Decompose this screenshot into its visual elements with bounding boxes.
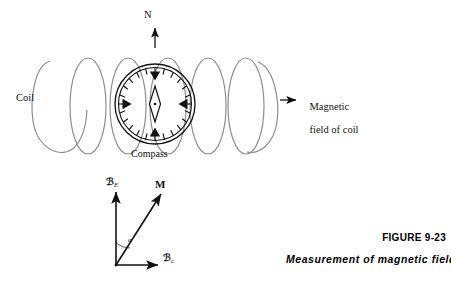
figure-caption: FIGURE 9-23 Measurement of magnetic fiel… [286,232,446,265]
label-compass: Compass [131,148,168,159]
coil-field-subscript: c [171,257,174,265]
label-earth-field-vector: ℬE [106,176,118,189]
compass-marker-north [150,72,160,81]
earth-field-symbol: ℬ [106,176,114,187]
coil-field-symbol: ℬ [163,252,171,263]
label-coil: Coil [16,92,34,104]
label-magnetic-field-of-coil: Magnetic field of coil [299,89,358,148]
compass-marker-west [123,99,132,109]
vector-resultant-m [116,194,161,265]
compass [115,64,195,144]
label-magnetic-field-line2: field of coil [310,124,359,135]
label-magnetic-field-line1: Magnetic [310,101,350,112]
compass-marker-east [179,99,188,109]
compass-marker-south [150,128,160,137]
label-north: N [144,9,152,21]
figure-number: FIGURE 9-23 [286,232,446,243]
vector-diagram [115,192,161,266]
coil-loop-6 [228,58,264,154]
figure-magnetic-field-measurement: N Coil Compass Magnetic field of coil ℬE… [0,0,451,290]
figure-title: Measurement of magnetic field [286,253,446,265]
coil-loop-7 [247,62,278,152]
label-coil-field-vector: ℬc [163,252,174,265]
label-angle-alpha: α [128,236,132,244]
earth-field-subscript: E [114,181,118,189]
label-resultant-vector: M [155,178,165,190]
compass-pivot-dot [154,103,157,106]
coil-loop-1 [32,61,87,152]
vector-origin-dot [115,264,118,267]
coil-loop-2 [70,58,106,154]
